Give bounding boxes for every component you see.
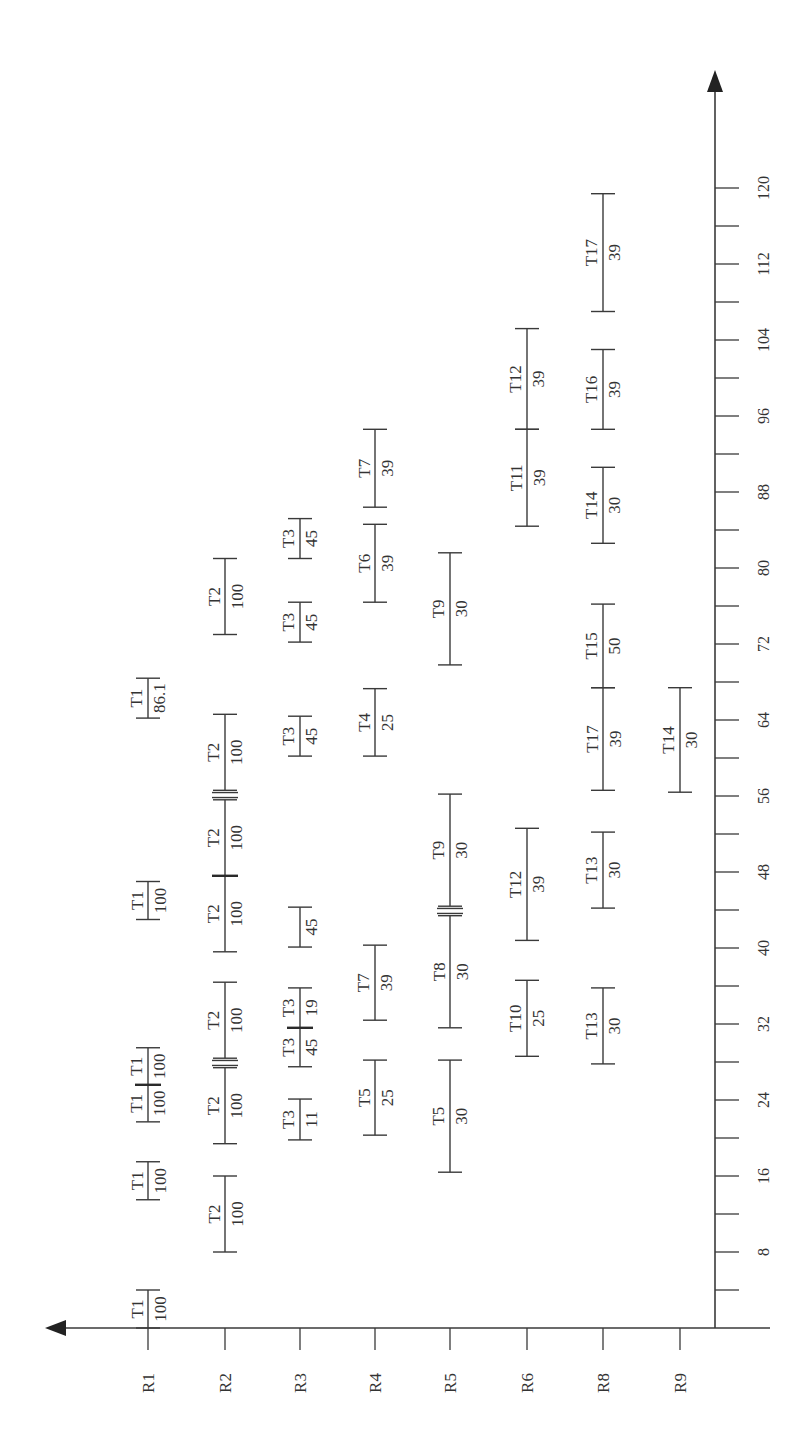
task-bar: T530 [430,1060,472,1172]
task-name: T8 [430,962,449,981]
task-name: T7 [355,973,374,992]
resource-label-r2: R2 [216,1373,235,1393]
task-name: T2 [205,828,224,847]
task-value: 45 [303,1039,322,1056]
task-bar: T739 [355,429,397,507]
task-name: T10 [507,1005,526,1032]
task-name: T17 [583,725,602,753]
task-value: 30 [683,731,702,748]
time-tick-label: 88 [755,484,772,500]
task-name: T1 [128,1094,147,1113]
task-value: 100 [151,1054,170,1080]
task-bar: T311 [280,1099,322,1140]
task-name: T14 [660,726,679,754]
time-tick-label: 48 [755,864,772,880]
task-value: 100 [151,1296,170,1322]
task-value: 39 [606,731,625,748]
task-value: 100 [228,901,247,927]
task-value: 25 [378,1089,397,1106]
task-bar: T2100 [205,982,247,1058]
task-value: 30 [453,963,472,980]
task-name: T1 [128,689,147,708]
task-name: T11 [507,464,526,491]
task-name: T3 [280,613,299,632]
task-name: T12 [507,871,526,898]
task-name: T4 [355,712,374,731]
task-value: 39 [378,555,397,572]
resource-label-r3: R3 [291,1373,310,1393]
task-value: 45 [303,614,322,631]
task-name: T2 [205,743,224,762]
task-bar: T930 [430,794,472,906]
resource-label-r5: R5 [441,1373,460,1393]
task-value: 25 [530,1010,549,1027]
task-name: T13 [583,1012,602,1039]
resource-label-r4: R4 [366,1373,385,1393]
task-bar: T1430 [583,467,625,543]
task-value: 100 [228,584,247,610]
task-value: 19 [303,999,322,1016]
task-bar: T1100 [128,1162,170,1200]
task-name: T3 [280,1110,299,1129]
task-name: T5 [430,1107,449,1126]
task-value: 100 [151,1168,170,1194]
task-name: T16 [583,376,602,403]
task-bar: T345 [280,716,322,756]
task-bar: T1100 [128,1290,170,1328]
task-value: 39 [530,370,549,387]
task-value: 25 [378,714,397,731]
task-bar: T1430 [660,688,702,793]
task-bar: T1139 [507,429,549,526]
task-bar: T2100 [205,714,247,790]
task-name: T2 [205,1096,224,1115]
task-name: T5 [355,1088,374,1107]
task-bar: T2100 [205,559,247,635]
task-name: T2 [205,1205,224,1224]
task-bar: T639 [355,524,397,602]
resource-schedule-diagram: 81624324048566472808896104112120 R1R2R3R… [0,0,812,1446]
task-bar: T1739 [583,688,625,791]
task-value: 50 [606,637,625,654]
task-value: 45 [303,530,322,547]
task-value: 30 [453,600,472,617]
task-name: T12 [507,365,526,392]
task-name: T3 [280,998,299,1017]
task-value: 39 [606,381,625,398]
time-tick-label: 72 [755,636,772,652]
task-bar: T186.1 [128,678,170,718]
task-value: 30 [453,842,472,859]
task-bar: T1239 [507,828,549,940]
time-axis-arrow-icon [707,70,723,92]
time-tick-label: 40 [755,940,772,956]
task-name: T2 [205,904,224,923]
time-tick-label: 112 [755,252,772,275]
task-name: T2 [205,587,224,606]
task-bar: T525 [355,1060,397,1135]
time-tick-label: 96 [755,408,772,424]
task-value: 100 [228,740,247,766]
task-bar: 45 [288,907,322,947]
time-ticks: 81624324048566472808896104112120 [715,176,772,1290]
task-bar: T2100 [205,876,247,952]
task-name: T3 [280,529,299,548]
task-value: 39 [378,460,397,477]
task-bar: T2100 [205,1068,247,1144]
task-value: 30 [453,1108,472,1125]
task-value: 45 [303,728,322,745]
task-bar: T1330 [583,988,625,1064]
task-bar: T1550 [583,604,625,688]
resource-label-r8: R8 [594,1373,613,1393]
task-value: 100 [228,1007,247,1032]
time-tick-label: 80 [755,560,772,576]
task-name: T13 [583,856,602,883]
task-bar: T1330 [583,832,625,908]
task-name: T9 [430,841,449,860]
task-bar: T2100 [205,800,247,876]
split-markers [135,793,463,1085]
task-value: 30 [606,862,625,879]
task-value: 100 [228,1201,247,1227]
task-bar: T1239 [507,329,549,430]
resource-ticks: R1R2R3R4R5R6R8R9 [139,1328,690,1393]
resource-label-r6: R6 [518,1373,537,1393]
task-value: 100 [228,1093,247,1119]
